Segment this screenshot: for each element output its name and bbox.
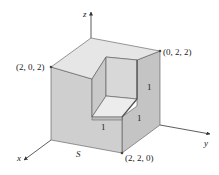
z-axis-label: z [82, 9, 87, 19]
notch-floor-edge [92, 117, 122, 120]
vertex-label-0-2-2: (0, 2, 2) [163, 47, 192, 57]
vertex-label-2-0-2: (2, 0, 2) [16, 62, 45, 72]
x-axis [24, 140, 51, 160]
surface-label-s: S [76, 149, 81, 159]
edge-label-notch-vertical: 1 [147, 82, 152, 92]
vertex-dot-2-2-0 [121, 152, 124, 155]
vertex-dot-2-0-2 [50, 66, 53, 69]
edge-label-notch-right: 1 [137, 113, 142, 123]
y-axis [160, 125, 210, 134]
notch-wall-back [106, 57, 137, 99]
y-axis-label: y [203, 138, 208, 148]
vertex-dot-0-2-2 [159, 50, 162, 53]
vertex-label-2-2-0: (2, 2, 0) [125, 153, 154, 163]
x-axis-label: x [16, 153, 21, 163]
edge-label-notch-bottom: 1 [101, 122, 106, 132]
surface-diagram: z y x (2, 0, 2) (0, 2, 2) (2, 2, 0) 1 1 … [0, 0, 219, 175]
